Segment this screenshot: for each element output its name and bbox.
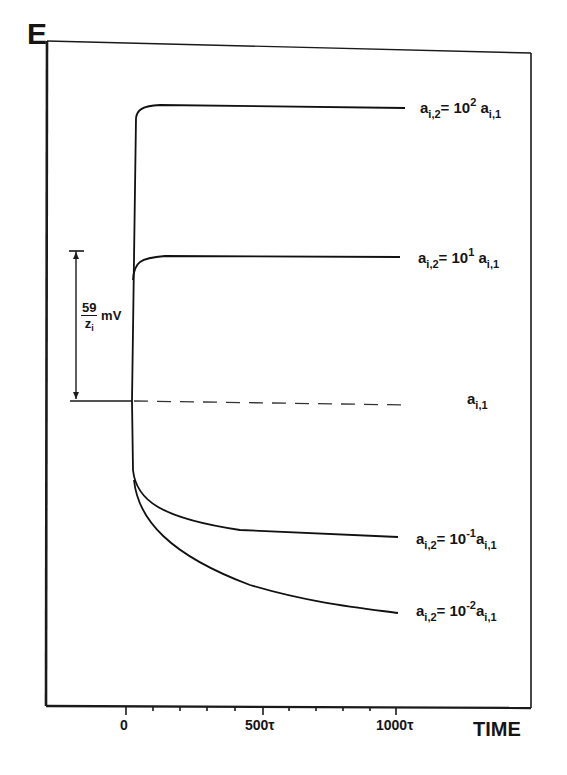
scale-fraction: 59 zi <box>81 300 97 333</box>
scale-bar-label: 59 zi mV <box>81 300 121 333</box>
curve-10e-2 <box>134 480 398 613</box>
legend-label-10e-1: ai,2= 10-1ai,1 <box>416 527 497 551</box>
legend-label-10e2: ai,2= 102 ai,1 <box>420 96 501 120</box>
curve-10e1 <box>133 256 400 280</box>
x-tick-label-0: 0 <box>120 717 128 733</box>
curves <box>132 105 405 613</box>
legend-label-baseline: ai,1 <box>467 390 488 411</box>
curve-10e-1 <box>132 401 398 537</box>
y-axis-label: E <box>27 17 47 51</box>
legend-label-10e-2: ai,2= 10-2ai,1 <box>416 599 497 623</box>
scale-denominator: zi <box>81 316 97 333</box>
baseline-dashed <box>134 401 410 405</box>
y-axis-line <box>46 41 47 706</box>
scale-denominator-sub: i <box>91 323 94 333</box>
x-tick-label-1000: 1000τ <box>376 717 413 733</box>
frame-top <box>47 41 531 53</box>
x-axis-title: TIME <box>473 718 521 741</box>
scale-unit: mV <box>101 308 121 323</box>
arrow-up-icon <box>73 252 79 259</box>
scale-numerator: 59 <box>81 300 97 316</box>
x-tick-label-500: 500τ <box>245 717 275 733</box>
legend-label-10e1: ai,2= 101 ai,1 <box>418 246 499 270</box>
curve-10e2 <box>132 105 405 401</box>
arrow-down-icon <box>73 392 79 399</box>
